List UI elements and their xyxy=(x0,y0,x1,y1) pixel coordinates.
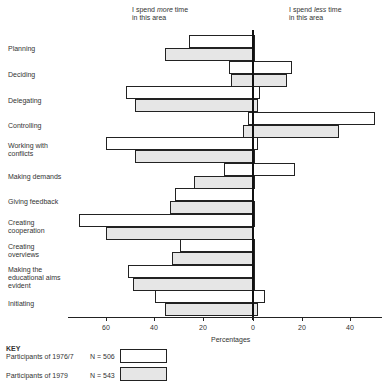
legend-n-1976: N = 506 xyxy=(90,353,115,360)
legend-title: KEY xyxy=(6,345,20,352)
category-label-planning: Planning xyxy=(8,45,35,53)
x-axis-label: Percentages xyxy=(211,336,250,343)
bar-1976 xyxy=(155,290,265,303)
annot-em: more xyxy=(157,6,173,13)
bar-1979 xyxy=(165,303,258,316)
legend-swatch-white xyxy=(120,349,167,363)
category-label-educational-aims: Making theeducational aimsevident xyxy=(8,266,61,290)
x-tick xyxy=(350,317,351,321)
x-tick xyxy=(253,317,254,321)
x-tick xyxy=(203,317,204,321)
bar-1979 xyxy=(165,48,256,61)
legend-n-1979: N = 543 xyxy=(90,372,115,379)
annot-text: I spend xyxy=(132,6,157,13)
legend-label-1979: Participants of 1979 xyxy=(6,372,68,379)
category-label-initiating: Initiating xyxy=(8,300,34,308)
bar-1979 xyxy=(135,99,258,112)
bar-1979 xyxy=(194,176,255,189)
annot-text: time xyxy=(326,6,341,13)
x-tick-label: 40 xyxy=(340,324,360,331)
annot-text: I spend xyxy=(289,6,314,13)
bar-1979 xyxy=(170,201,256,214)
bar-1979 xyxy=(133,278,256,291)
bar-1976 xyxy=(175,188,255,201)
category-label-creating-cooperation: Creatingcooperation xyxy=(8,219,45,235)
category-label-making-demands: Making demands xyxy=(8,173,61,181)
annot-em: less xyxy=(314,6,326,13)
bar-1976 xyxy=(126,86,261,99)
annot-text: in this area xyxy=(132,14,166,21)
label-line: overviews xyxy=(8,251,39,258)
x-tick xyxy=(106,317,107,321)
label-line: Creating xyxy=(8,219,34,226)
category-label-controlling: Controlling xyxy=(8,122,41,130)
bar-1976 xyxy=(106,137,258,150)
bar-1979 xyxy=(135,150,255,163)
less-time-annotation: I spend less time in this area xyxy=(289,6,342,22)
legend-label-1976: Participants of 1976/7 xyxy=(6,353,74,360)
x-tick-label: 0 xyxy=(243,324,263,331)
label-line: conflicts xyxy=(8,150,33,157)
bar-1979 xyxy=(243,125,339,138)
category-label-delegating: Delegating xyxy=(8,97,41,105)
bar-1979 xyxy=(172,252,255,265)
x-tick-label: 20 xyxy=(193,324,213,331)
bar-1976 xyxy=(224,163,295,176)
bar-1976 xyxy=(229,61,293,74)
label-line: educational aims xyxy=(8,274,61,281)
zero-line xyxy=(252,30,254,320)
x-tick-label: 60 xyxy=(96,324,116,331)
bar-1976 xyxy=(128,265,255,278)
bar-1976 xyxy=(180,239,256,252)
x-tick-label: 40 xyxy=(144,324,164,331)
x-tick xyxy=(302,317,303,321)
bar-1979 xyxy=(231,74,287,87)
category-label-working-with-conflicts: Working withconflicts xyxy=(8,142,48,158)
category-label-deciding: Deciding xyxy=(8,71,35,79)
x-tick-label: 20 xyxy=(292,324,312,331)
more-time-annotation: I spend more time in this area xyxy=(132,6,188,22)
legend-swatch-dotted xyxy=(120,367,167,381)
annot-text: time xyxy=(173,6,188,13)
bar-1976 xyxy=(248,112,375,125)
annot-text: in this area xyxy=(289,14,323,21)
label-line: Working with xyxy=(8,142,48,149)
label-line: Creating xyxy=(8,243,34,250)
label-line: evident xyxy=(8,282,31,289)
label-line: cooperation xyxy=(8,227,45,234)
x-axis xyxy=(68,317,382,318)
bar-1976 xyxy=(189,35,255,48)
bar-1976 xyxy=(79,214,255,227)
label-line: Making the xyxy=(8,266,42,273)
x-tick xyxy=(154,317,155,321)
category-label-giving-feedback: Giving feedback xyxy=(8,198,58,206)
bar-1979 xyxy=(106,227,253,240)
category-label-creating-overviews: Creatingoverviews xyxy=(8,243,39,259)
